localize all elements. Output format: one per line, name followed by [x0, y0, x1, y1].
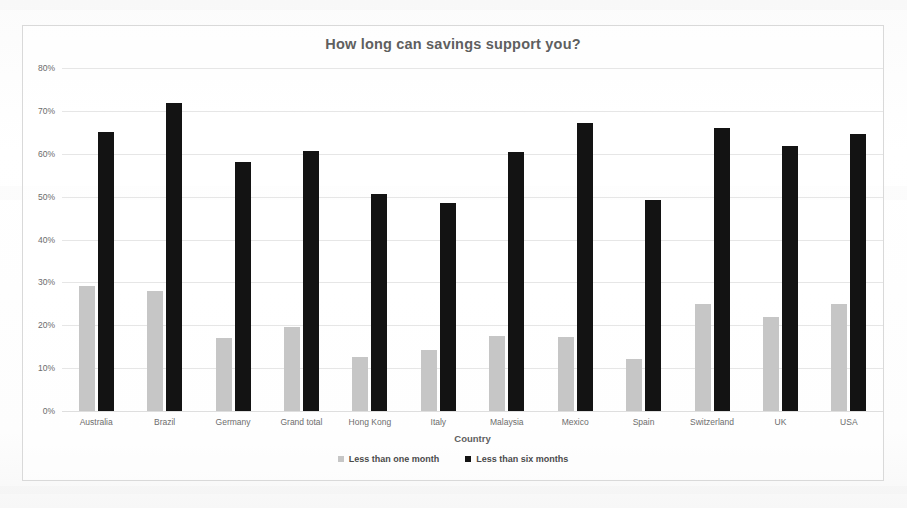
- y-axis-tick-label: 10%: [38, 363, 55, 373]
- legend-swatch-icon: [465, 456, 471, 462]
- y-axis-tick-label: 40%: [38, 235, 55, 245]
- y-axis-tick-label: 0%: [43, 406, 55, 416]
- x-axis-title: Country: [62, 433, 883, 444]
- legend-label: Less than six months: [476, 454, 568, 464]
- bar-group: Mexico: [541, 68, 609, 411]
- bar-group: Brazil: [130, 68, 198, 411]
- bar[interactable]: [714, 128, 730, 411]
- x-axis-tick-label: Hong Kong: [349, 417, 392, 427]
- bar-group: Grand total: [267, 68, 335, 411]
- bar-group: Malaysia: [473, 68, 541, 411]
- bar[interactable]: [558, 337, 574, 411]
- bar[interactable]: [508, 152, 524, 411]
- bar[interactable]: [216, 338, 232, 411]
- x-axis-tick-label: UK: [775, 417, 787, 427]
- bar[interactable]: [147, 291, 163, 411]
- bar[interactable]: [303, 151, 319, 411]
- bar-group: Hong Kong: [336, 68, 404, 411]
- y-axis-tick-label: 30%: [38, 277, 55, 287]
- x-axis-tick-label: Mexico: [562, 417, 589, 427]
- bar-group: Switzerland: [678, 68, 746, 411]
- bar[interactable]: [850, 134, 866, 411]
- bar[interactable]: [645, 200, 661, 411]
- bar[interactable]: [577, 123, 593, 411]
- bar[interactable]: [489, 336, 505, 411]
- bar-group: Germany: [199, 68, 267, 411]
- plot-area: 80%70%60%50%40%30%20%10%0% AustraliaBraz…: [62, 68, 883, 411]
- bar[interactable]: [831, 304, 847, 411]
- bar-group: Spain: [609, 68, 677, 411]
- bar-group: Australia: [62, 68, 130, 411]
- legend-swatch-icon: [338, 456, 344, 462]
- scan-artifact-bottom: [0, 486, 907, 494]
- x-axis-tick-label: Grand total: [280, 417, 322, 427]
- chart-title: How long can savings support you?: [23, 36, 883, 52]
- legend-item[interactable]: Less than six months: [465, 454, 568, 464]
- x-axis-tick-label: Switzerland: [690, 417, 734, 427]
- bar[interactable]: [284, 327, 300, 411]
- bar[interactable]: [371, 194, 387, 411]
- y-axis-tick-label: 60%: [38, 149, 55, 159]
- bar[interactable]: [421, 350, 437, 411]
- x-axis-tick-label: Italy: [431, 417, 447, 427]
- bar[interactable]: [98, 132, 114, 411]
- bar[interactable]: [440, 203, 456, 411]
- x-axis-tick-label: Germany: [216, 417, 251, 427]
- y-axis-tick-label: 80%: [38, 63, 55, 73]
- y-axis-tick-label: 70%: [38, 106, 55, 116]
- chart-legend: Less than one monthLess than six months: [23, 454, 883, 464]
- gridline: 0%: [62, 411, 883, 412]
- scan-artifact-top: [0, 0, 907, 10]
- bar[interactable]: [626, 359, 642, 411]
- bar-group: Italy: [404, 68, 472, 411]
- bar[interactable]: [763, 317, 779, 411]
- legend-item[interactable]: Less than one month: [338, 454, 440, 464]
- y-axis-tick-label: 20%: [38, 320, 55, 330]
- legend-label: Less than one month: [349, 454, 440, 464]
- screenshot-page: How long can savings support you? 80%70%…: [0, 0, 907, 508]
- bar[interactable]: [235, 162, 251, 411]
- bar[interactable]: [352, 357, 368, 411]
- bar[interactable]: [79, 286, 95, 411]
- bar-groups: AustraliaBrazilGermanyGrand totalHong Ko…: [62, 68, 883, 411]
- x-axis-tick-label: USA: [840, 417, 857, 427]
- bar[interactable]: [695, 304, 711, 411]
- x-axis-tick-label: Malaysia: [490, 417, 524, 427]
- bar[interactable]: [166, 103, 182, 411]
- bar-group: USA: [815, 68, 883, 411]
- x-axis-tick-label: Australia: [80, 417, 113, 427]
- bar-group: UK: [746, 68, 814, 411]
- x-axis-tick-label: Spain: [633, 417, 655, 427]
- bar[interactable]: [782, 146, 798, 411]
- x-axis-tick-label: Brazil: [154, 417, 175, 427]
- chart-container: How long can savings support you? 80%70%…: [22, 25, 884, 481]
- y-axis-tick-label: 50%: [38, 192, 55, 202]
